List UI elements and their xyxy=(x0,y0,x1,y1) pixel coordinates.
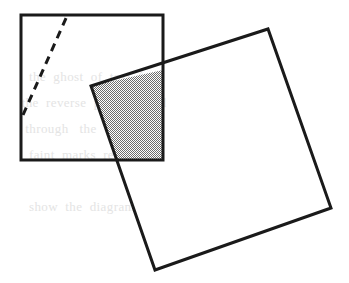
dashed-line xyxy=(23,16,67,115)
figure-container: the ghost of text from the reverse page … xyxy=(0,0,349,283)
geometry-figure xyxy=(0,0,349,283)
